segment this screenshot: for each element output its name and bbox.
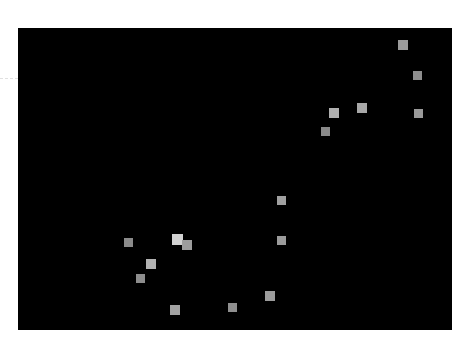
scatter-marker[interactable] [182, 240, 192, 250]
scatter-marker[interactable] [413, 71, 422, 80]
scatter-plot-panel[interactable] [18, 28, 452, 330]
scatter-marker[interactable] [265, 291, 275, 301]
scatter-marker[interactable] [321, 127, 330, 136]
scatter-marker[interactable] [170, 305, 180, 315]
scatter-marker[interactable] [357, 103, 367, 113]
x-axis-label [0, 0, 1, 1]
scatter-marker[interactable] [398, 40, 408, 50]
scatter-marker[interactable] [146, 259, 156, 269]
scatter-marker[interactable] [277, 236, 286, 245]
scatter-marker[interactable] [172, 234, 183, 245]
scatter-marker[interactable] [136, 274, 145, 283]
scatter-marker[interactable] [414, 109, 423, 118]
figure-canvas [0, 0, 456, 349]
scatter-marker[interactable] [228, 303, 237, 312]
y-axis-label [0, 0, 1, 1]
chart-title [0, 0, 1, 1]
scatter-marker[interactable] [277, 196, 286, 205]
horizontal-dashed-gridline [0, 78, 18, 79]
scatter-marker[interactable] [329, 108, 339, 118]
scatter-marker[interactable] [124, 238, 133, 247]
